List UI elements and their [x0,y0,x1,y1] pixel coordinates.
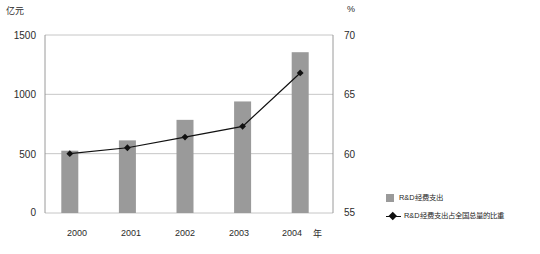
chart-legend: R&D经费支出 R&D经费支出占全国总量的比重 [386,194,504,230]
legend-bar-swatch-icon [386,194,394,202]
legend-item-bar: R&D经费支出 [386,194,504,203]
chart-container: 亿元 % 1500 1000 500 0 70 65 60 55 2000 20… [0,0,540,254]
legend-item-line: R&D经费支出占全国总量的比重 [386,212,504,221]
legend-diamond-line-icon [386,212,401,220]
legend-label-line: R&D经费支出占全国总量的比重 [404,212,504,221]
legend-label-bar: R&D经费支出 [399,194,443,203]
bar-series [61,52,308,213]
